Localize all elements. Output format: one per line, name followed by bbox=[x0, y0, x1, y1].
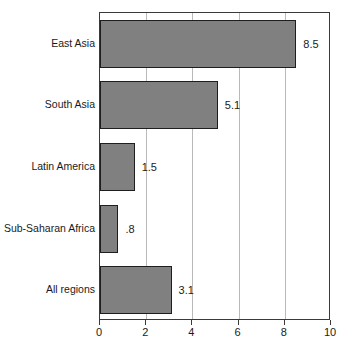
category-label-south-asia: South Asia bbox=[3, 99, 95, 110]
plot-area: 8.55.11.5.83.1 bbox=[99, 12, 330, 320]
category-label-all-regions: All regions bbox=[3, 284, 95, 295]
bar-value-label: .8 bbox=[125, 223, 134, 234]
category-label-east-asia: East Asia bbox=[3, 38, 95, 49]
x-axis: 0246810 bbox=[99, 320, 330, 345]
bar[interactable] bbox=[100, 205, 118, 253]
x-tick-mark-4 bbox=[191, 320, 192, 325]
x-tick-label-10: 10 bbox=[324, 327, 336, 338]
bar-row: 3.1 bbox=[100, 266, 331, 314]
bar[interactable] bbox=[100, 143, 135, 191]
bar[interactable] bbox=[100, 266, 172, 314]
bar-value-label: 3.1 bbox=[179, 285, 194, 296]
bar-value-label: 5.1 bbox=[225, 100, 240, 111]
x-tick-mark-6 bbox=[238, 320, 239, 325]
category-label-sub-saharan-africa: Sub-Saharan Africa bbox=[3, 222, 95, 233]
y-axis-category-labels: East AsiaSouth AsiaLatin AmericaSub-Saha… bbox=[0, 12, 95, 320]
bar[interactable] bbox=[100, 20, 296, 68]
category-label-latin-america: Latin America bbox=[3, 161, 95, 172]
bar-row: 1.5 bbox=[100, 143, 331, 191]
x-tick-label-2: 2 bbox=[142, 327, 148, 338]
x-tick-mark-8 bbox=[284, 320, 285, 325]
bar-row: 5.1 bbox=[100, 81, 331, 129]
x-tick-label-8: 8 bbox=[281, 327, 287, 338]
x-tick-mark-10 bbox=[330, 320, 331, 325]
x-tick-label-0: 0 bbox=[96, 327, 102, 338]
x-tick-mark-0 bbox=[99, 320, 100, 325]
bar-chart: East AsiaSouth AsiaLatin AmericaSub-Saha… bbox=[0, 0, 343, 345]
bar-row: .8 bbox=[100, 205, 331, 253]
x-tick-label-4: 4 bbox=[188, 327, 194, 338]
x-tick-label-6: 6 bbox=[235, 327, 241, 338]
x-tick-mark-2 bbox=[145, 320, 146, 325]
bar[interactable] bbox=[100, 81, 218, 129]
bar-row: 8.5 bbox=[100, 20, 331, 68]
bar-value-label: 1.5 bbox=[142, 162, 157, 173]
bar-value-label: 8.5 bbox=[303, 38, 318, 49]
